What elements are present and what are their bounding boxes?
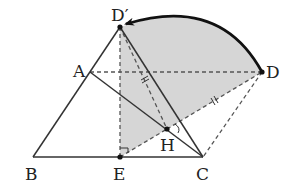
- geometry-figure: D′ A D B E C H: [0, 0, 297, 196]
- point-d: [259, 69, 264, 74]
- point-e: [117, 154, 122, 159]
- label-d: D: [266, 62, 280, 82]
- label-e: E: [113, 164, 125, 184]
- point-h: [164, 126, 169, 131]
- label-dprime: D′: [111, 5, 129, 25]
- shaded-region: [120, 18, 262, 157]
- label-a: A: [72, 61, 86, 81]
- label-h: H: [160, 135, 175, 155]
- angle-mark-h: [175, 124, 179, 133]
- segment-b-dprime: [33, 27, 120, 157]
- label-b: B: [25, 164, 38, 184]
- point-dprime: [117, 24, 122, 29]
- label-c: C: [196, 164, 209, 184]
